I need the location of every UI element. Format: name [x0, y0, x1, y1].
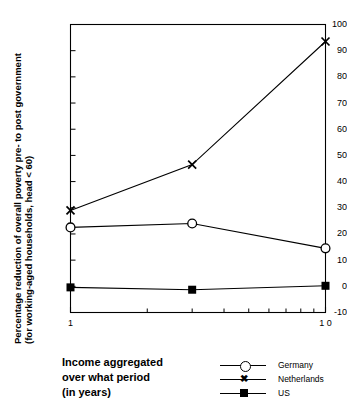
- plot-area: [0, 0, 347, 409]
- y-tick-label: 40: [325, 177, 347, 186]
- x-axis-title-line-3: (in years): [62, 385, 222, 400]
- y-tick-label: 90: [325, 46, 347, 55]
- y-tick-label: 80: [325, 72, 347, 81]
- chart-figure: Percentage reduction of overall poverty …: [0, 0, 347, 409]
- open-circle-marker-icon: [240, 361, 251, 372]
- y-tick-label: 20: [325, 229, 347, 238]
- x-marker-icon: ✖: [239, 374, 249, 384]
- legend-key-netherlands: ✖: [218, 372, 270, 386]
- legend-key-germany: [218, 358, 270, 372]
- y-tick-label: 100: [325, 20, 347, 29]
- data-point-filled-square: [188, 286, 196, 294]
- legend-label-germany: Germany: [270, 360, 313, 370]
- series-netherlands: [67, 38, 330, 215]
- plot-border: [71, 25, 326, 313]
- y-tick-label: 50: [325, 151, 347, 160]
- legend-item-us: US: [218, 386, 346, 400]
- data-point-x-marker: [188, 161, 196, 169]
- legend-label-us: US: [270, 388, 290, 398]
- y-tick-label: 0: [325, 282, 347, 291]
- x-tick-label: 1: [51, 319, 91, 328]
- y-tick-label: 60: [325, 125, 347, 134]
- chart-legend: Germany ✖ Netherlands US: [218, 358, 346, 400]
- y-tick-label: -10: [325, 308, 347, 317]
- legend-item-germany: Germany: [218, 358, 346, 372]
- y-tick-label: 10: [325, 256, 347, 265]
- legend-item-netherlands: ✖ Netherlands: [218, 372, 346, 386]
- x-axis-title: Income aggregated over what period (in y…: [62, 355, 222, 400]
- legend-key-us: [218, 386, 270, 400]
- filled-square-marker-icon: [240, 389, 248, 397]
- data-point-open-circle: [321, 244, 330, 253]
- x-tick-label: 1 0: [306, 319, 346, 328]
- y-tick-label: 30: [325, 203, 347, 212]
- legend-label-netherlands: Netherlands: [270, 374, 324, 384]
- series-germany: [66, 219, 330, 253]
- data-point-filled-square: [67, 283, 75, 291]
- data-point-open-circle: [188, 219, 197, 228]
- data-point-open-circle: [66, 223, 75, 232]
- x-axis-title-line-1: Income aggregated: [62, 355, 222, 370]
- series-us: [67, 282, 330, 294]
- y-tick-label: 70: [325, 99, 347, 108]
- x-axis-title-line-2: over what period: [62, 370, 222, 385]
